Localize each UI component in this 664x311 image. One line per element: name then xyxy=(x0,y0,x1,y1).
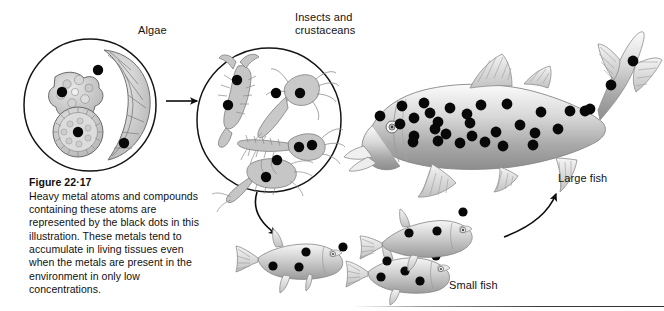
figure-number: Figure 22·17 xyxy=(29,176,209,189)
arrow-small-fish-to-large-fish xyxy=(504,194,556,237)
bioaccumulation-figure: Algae Insects and crustaceans Large fish… xyxy=(0,0,664,311)
label-large-fish: Large fish xyxy=(558,172,607,185)
figure-caption-text: Heavy metal atoms and compounds containi… xyxy=(29,190,209,296)
figure-caption: Figure 22·17 Heavy metal atoms and compo… xyxy=(29,176,209,296)
arrow-crustaceans-to-small-fish xyxy=(255,192,276,234)
small-fish-1 xyxy=(236,229,348,293)
crustacean-group xyxy=(197,48,345,212)
small-fish-3 xyxy=(360,207,472,271)
small-fish-group xyxy=(236,207,472,305)
label-algae: Algae xyxy=(138,24,167,37)
algae-group xyxy=(24,39,156,171)
large-fish xyxy=(344,32,662,197)
label-insects-crustaceans: Insects and crustaceans xyxy=(295,11,355,37)
label-small-fish: Small fish xyxy=(449,279,498,292)
bottom-rule xyxy=(352,306,664,307)
